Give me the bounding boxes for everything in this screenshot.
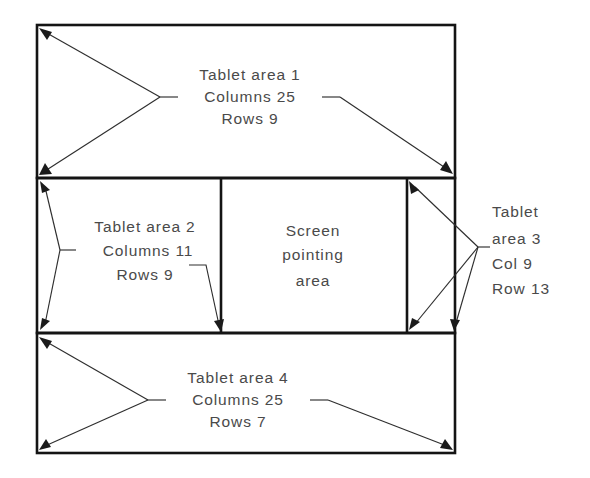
label-area4-line3: Rows 7	[209, 413, 266, 430]
label-screen-line2: pointing	[282, 246, 344, 263]
arrowhead-area1-topleft	[39, 28, 52, 40]
leader-area3-to-divider-bottom	[415, 247, 478, 324]
label-screen-pointing-area: Screen pointing area	[282, 222, 344, 289]
arrowhead-area1-bottomright	[440, 161, 453, 174]
leader-area1-to-topleft	[45, 32, 160, 97]
region-rect-middle-band	[37, 178, 455, 333]
leader-area2-to-divider	[189, 265, 219, 325]
label-tablet-area-3: Tablet area 3 Col 9 Row 13	[492, 203, 550, 297]
label-area4-line2: Columns 25	[192, 391, 284, 408]
label-tablet-area-2: Tablet area 2 Columns 11 Rows 9	[94, 218, 195, 283]
label-tablet-area-4: Tablet area 4 Columns 25 Rows 7	[187, 369, 288, 430]
arrowhead-area4-bottomleft	[39, 439, 51, 450]
arrowhead-area2-divider	[214, 319, 224, 332]
label-screen-line1: Screen	[286, 222, 341, 239]
arrowhead-area2-bottomleft	[40, 318, 50, 330]
label-area1-line3: Rows 9	[221, 110, 278, 127]
label-area1-line1: Tablet area 1	[199, 66, 300, 83]
arrowhead-area4-bottomright	[440, 439, 453, 450]
label-tablet-area-1: Tablet area 1 Columns 25 Rows 9	[199, 66, 300, 127]
leaders-tablet-area-3	[409, 181, 490, 331]
leader-area1-to-bottomright	[340, 97, 447, 169]
leader-area4-to-bottomleft	[45, 400, 148, 446]
label-area2-line3: Rows 9	[116, 266, 173, 283]
leader-area2-to-bottomleft	[45, 250, 60, 324]
leader-area3-to-right-bottom	[456, 247, 478, 323]
label-area2-line1: Tablet area 2	[94, 218, 195, 235]
arrowhead-area1-bottomleft	[39, 163, 52, 175]
leader-area3-to-divider-top	[415, 187, 478, 247]
leader-area4-to-bottomright	[328, 400, 447, 446]
label-area3-line4: Row 13	[492, 280, 550, 297]
label-area4-line1: Tablet area 4	[187, 369, 288, 386]
label-area2-line2: Columns 11	[103, 242, 194, 259]
label-area3-line2: area 3	[492, 230, 541, 247]
arrowhead-area4-topleft	[39, 337, 52, 349]
arrowhead-area2-topleft	[40, 181, 50, 193]
arrowhead-area3-divider-top	[409, 181, 419, 194]
diagram-canvas: Tablet area 1 Columns 25 Rows 9 Tablet a…	[0, 0, 590, 478]
leader-area1-to-bottomleft	[45, 97, 160, 171]
label-area3-line3: Col 9	[492, 255, 533, 272]
tablet-layout-diagram: Tablet area 1 Columns 25 Rows 9 Tablet a…	[0, 0, 590, 478]
label-area3-line1: Tablet	[492, 203, 539, 220]
label-screen-line3: area	[296, 272, 331, 289]
label-area1-line2: Columns 25	[204, 88, 296, 105]
leader-area4-to-topleft	[45, 341, 148, 400]
leader-area2-to-topleft	[45, 187, 60, 250]
